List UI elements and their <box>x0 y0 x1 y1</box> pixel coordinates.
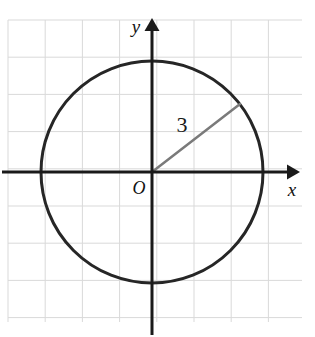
coordinate-figure: y x O 3 <box>0 0 315 337</box>
radius-label: 3 <box>177 112 188 137</box>
origin-label: O <box>133 178 146 198</box>
figure-canvas: y x O 3 <box>0 0 315 337</box>
y-axis-label: y <box>130 16 141 37</box>
x-axis-label: x <box>287 179 297 200</box>
